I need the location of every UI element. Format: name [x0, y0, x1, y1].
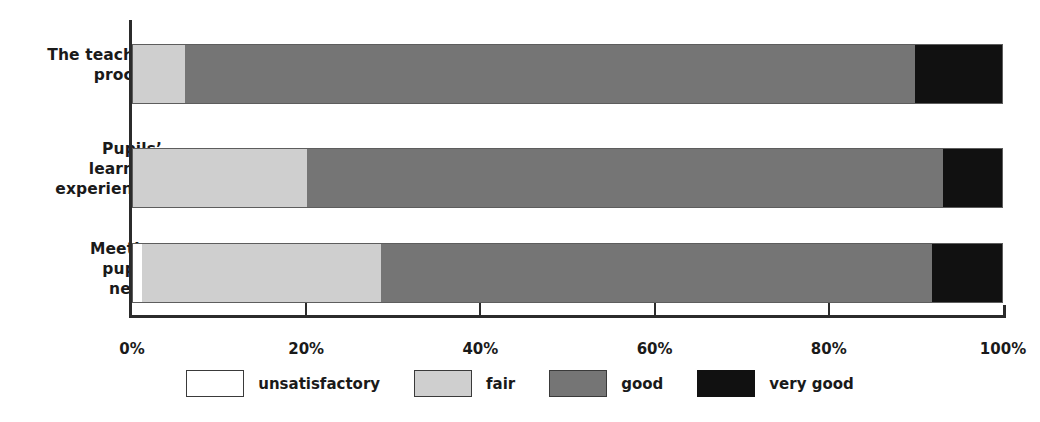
bar-segment-verygood — [932, 244, 1002, 302]
legend-swatch-good — [549, 370, 607, 397]
x-axis-tick-label: 20% — [288, 340, 324, 358]
x-axis-tick-label: 80% — [811, 340, 847, 358]
legend-item-verygood[interactable]: very good — [697, 370, 853, 397]
bar-segment-fair — [133, 149, 307, 207]
x-axis-tick-label: 40% — [462, 340, 498, 358]
legend-item-fair[interactable]: fair — [414, 370, 515, 397]
x-axis-tick-label: 0% — [119, 340, 144, 358]
legend-label-unsat: unsatisfactory — [258, 375, 380, 393]
stacked-bar-chart: The teaching process Pupils’ learning ex… — [0, 0, 1040, 422]
bar-segment-good — [307, 149, 943, 207]
chart-legend: unsatisfactoryfairgoodvery good — [0, 370, 1040, 397]
bar-segment-good — [185, 45, 915, 103]
x-axis-tick — [654, 303, 656, 315]
bar-segment-fair — [133, 45, 185, 103]
x-axis-tick — [479, 303, 481, 315]
bar-3 — [132, 243, 1003, 303]
bar-segment-fair — [142, 244, 381, 302]
legend-swatch-unsat — [186, 370, 244, 397]
bar-segment-verygood — [915, 45, 1002, 103]
bar-1 — [132, 44, 1003, 104]
bar-segment-verygood — [943, 149, 1002, 207]
x-axis-tick — [305, 303, 307, 315]
x-axis-tick — [828, 303, 830, 315]
legend-label-good: good — [621, 375, 663, 393]
x-axis-tick-label: 60% — [637, 340, 673, 358]
plot-area — [132, 20, 1003, 318]
bar-2 — [132, 148, 1003, 208]
legend-label-fair: fair — [486, 375, 515, 393]
x-axis-end-cap — [1003, 305, 1006, 318]
x-axis-tick-label: 100% — [980, 340, 1026, 358]
legend-item-good[interactable]: good — [549, 370, 663, 397]
bar-segment-unsat — [133, 244, 142, 302]
legend-swatch-fair — [414, 370, 472, 397]
legend-label-verygood: very good — [769, 375, 853, 393]
x-axis-line — [129, 315, 1006, 318]
bar-segment-good — [381, 244, 933, 302]
legend-item-unsat[interactable]: unsatisfactory — [186, 370, 380, 397]
legend-swatch-verygood — [697, 370, 755, 397]
